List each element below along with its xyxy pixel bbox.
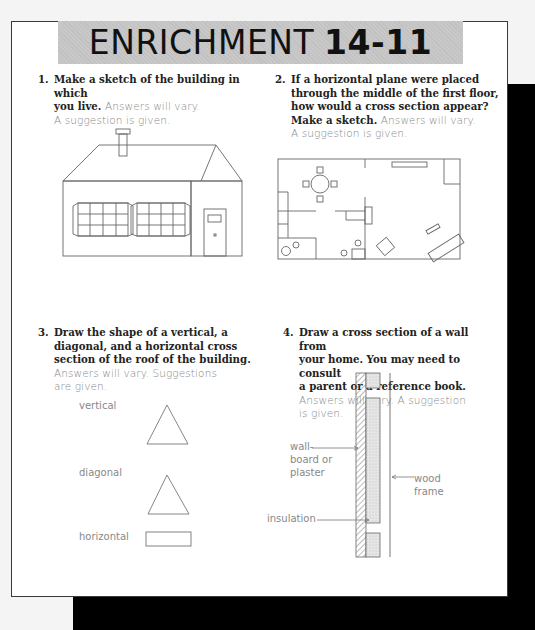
diagonal-cross-section-triangle: [146, 473, 191, 516]
question-1: 1. Make a sketch of the building in whic…: [54, 73, 254, 127]
label-wall-board-line3: plaster: [290, 467, 325, 478]
question-number: 4.: [283, 326, 294, 340]
question-prompt-line: through the middle of the first floor,: [291, 87, 501, 101]
question-prompt-line: Make a sketch.: [291, 114, 377, 126]
answer-text: Answers will vary.: [381, 114, 476, 126]
insulation-leader-arrow: [317, 516, 372, 524]
answer-text: is given.: [299, 407, 344, 419]
vertical-cross-section-triangle: [145, 403, 190, 446]
question-number: 3.: [38, 326, 49, 340]
house-sketch: [61, 121, 251, 261]
question-prompt-line: diagonal, and a horizontal cross: [54, 340, 254, 354]
label-wood-frame-line1: wood: [414, 473, 441, 484]
question-3: 3. Draw the shape of a vertical, a diago…: [54, 326, 254, 394]
answer-text: A suggestion is given.: [291, 127, 407, 139]
question-number: 1.: [38, 73, 49, 87]
worksheet-page: ENRICHMENT14-11 1. Make a sketch of the …: [11, 21, 508, 597]
question-2: 2. If a horizontal plane were placed thr…: [291, 73, 501, 141]
label-wall-board-line2: board or: [290, 454, 332, 465]
page-shadow-right: [508, 84, 535, 630]
title-number: 14-11: [324, 23, 432, 62]
answer-text: Answers will vary.: [105, 100, 200, 112]
question-prompt-line: Draw the shape of a vertical, a: [54, 326, 254, 340]
horizontal-cross-section-rectangle: [145, 530, 193, 548]
title-band: ENRICHMENT14-11: [58, 21, 463, 64]
label-wood-frame-line2: frame: [414, 486, 444, 497]
label-diagonal: diagonal: [79, 467, 122, 478]
floor-plan-cross-section: [276, 157, 461, 262]
question-prompt-line: section of the roof of the building.: [54, 353, 254, 367]
answer-text: Answers will vary. Suggestions: [54, 367, 217, 379]
label-insulation: insulation: [267, 513, 316, 524]
question-prompt-line: Draw a cross section of a wall from: [299, 326, 499, 353]
page-shadow-bottom: [73, 597, 535, 630]
question-prompt-line: you live.: [54, 100, 101, 112]
label-wall-board-line1: wall-: [290, 441, 313, 452]
question-number: 2.: [275, 73, 286, 87]
answer-text: are given.: [54, 380, 107, 392]
question-prompt-line: how would a cross section appear?: [291, 100, 501, 114]
wall-cross-section: [354, 373, 404, 558]
question-prompt-line: Make a sketch of the building in which: [54, 73, 254, 100]
label-horizontal: horizontal: [79, 531, 129, 542]
wood-frame-leader-arrow: [390, 473, 416, 481]
title-word: ENRICHMENT: [89, 23, 314, 62]
label-vertical: vertical: [79, 400, 116, 411]
question-prompt-line: If a horizontal plane were placed: [291, 73, 501, 87]
wall-board-leader-arrow: [312, 444, 362, 452]
page-title: ENRICHMENT14-11: [89, 23, 432, 62]
